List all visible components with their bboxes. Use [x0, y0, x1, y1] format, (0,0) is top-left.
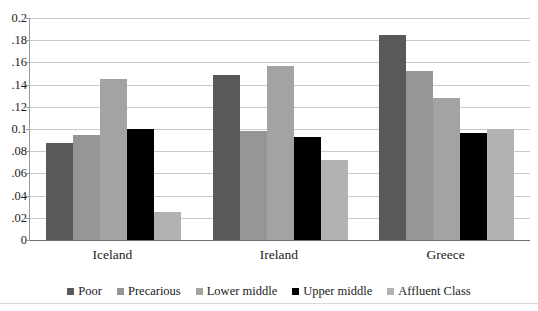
gridline [30, 62, 530, 63]
y-axis-tick [26, 40, 30, 41]
legend-item: Upper middle [292, 285, 372, 298]
y-axis-tick [26, 62, 30, 63]
bar [294, 137, 321, 240]
bottom-divider [0, 303, 538, 304]
bar [433, 98, 460, 240]
y-axis-tick [26, 218, 30, 219]
y-axis-tick-label: 0.2 [0, 12, 27, 24]
legend-item: Precarious [117, 285, 181, 298]
y-axis-tick-label: .12 [0, 101, 27, 113]
legend-swatch-icon [67, 288, 74, 295]
legend-item: Lower middle [196, 285, 277, 298]
bar [321, 160, 348, 240]
legend-swatch-icon [117, 288, 124, 295]
bar [460, 133, 487, 240]
plot-area [29, 18, 530, 241]
y-axis-tick-label: .08 [0, 145, 27, 157]
y-axis-tick-label: 0 [0, 234, 27, 246]
legend-swatch-icon [387, 288, 394, 295]
bar [154, 212, 181, 240]
y-axis-tick [26, 18, 30, 19]
bar [267, 66, 294, 240]
bar [100, 79, 127, 240]
y-axis-labels: 0.02.04.06.080.1.12.14.16.180.2 [0, 0, 27, 250]
gridline [30, 40, 530, 41]
legend-label: Lower middle [207, 285, 277, 298]
legend-swatch-icon [292, 288, 299, 295]
bar [46, 143, 73, 240]
y-axis-tick [26, 129, 30, 130]
y-axis-tick [26, 196, 30, 197]
x-axis-category-labels: IcelandIrelandGreece [29, 247, 529, 269]
y-axis-tick-label: .04 [0, 190, 27, 202]
y-axis-tick [26, 85, 30, 86]
bar-chart: 0.02.04.06.080.1.12.14.16.180.2 IcelandI… [0, 0, 538, 311]
bar [406, 71, 433, 240]
y-axis-tick [26, 107, 30, 108]
y-axis-tick [26, 173, 30, 174]
legend-label: Affluent Class [398, 285, 470, 298]
bar [240, 131, 267, 240]
chart-legend: PoorPrecariousLower middleUpper middleAf… [0, 281, 538, 301]
legend-label: Precarious [128, 285, 181, 298]
x-axis-tick-label: Greece [362, 247, 529, 263]
y-axis-tick-label: 0.1 [0, 123, 27, 135]
bar [73, 135, 100, 240]
bar [213, 75, 240, 240]
x-axis-tick-label: Ireland [196, 247, 363, 263]
legend-label: Upper middle [303, 285, 372, 298]
x-axis-tick-label: Iceland [29, 247, 196, 263]
legend-item: Poor [67, 285, 102, 298]
legend-item: Affluent Class [387, 285, 470, 298]
y-axis-tick-label: .18 [0, 34, 27, 46]
legend-swatch-icon [196, 288, 203, 295]
y-axis-tick-label: .14 [0, 79, 27, 91]
gridline [30, 18, 530, 19]
y-axis-tick-label: .16 [0, 56, 27, 68]
y-axis-tick [26, 151, 30, 152]
bar [127, 129, 154, 240]
y-axis-tick [26, 240, 30, 241]
bar [487, 129, 514, 240]
bar [379, 35, 406, 240]
legend-label: Poor [78, 285, 102, 298]
y-axis-tick-label: .06 [0, 167, 27, 179]
y-axis-tick-label: .02 [0, 212, 27, 224]
